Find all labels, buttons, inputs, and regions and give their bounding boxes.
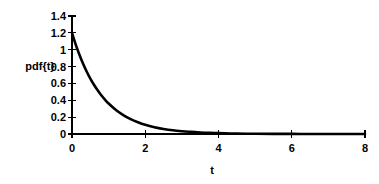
y-tick-label: 0.2 [51,111,66,123]
y-tick-label: 0.6 [51,77,66,89]
y-tick-label: 0 [60,128,66,140]
x-tick-label: 0 [69,142,75,154]
x-axis-title: t [210,164,214,176]
x-axis-tick-labels: 02468 [69,142,368,154]
exponential-pdf-chart: 00.20.40.60.811.21.4 02468 pdf{t} t [0,0,379,184]
y-axis-tick-labels: 00.20.40.60.811.21.4 [51,10,67,140]
x-tick-label: 6 [289,142,295,154]
y-tick-label: 1.2 [51,27,66,39]
y-tick-label: 0.4 [51,94,67,106]
chart-canvas: 00.20.40.60.811.21.4 02468 pdf{t} t [0,0,379,184]
y-tick-label: 1.4 [51,10,67,22]
pdf-curve [72,33,365,134]
x-tick-label: 2 [142,142,148,154]
y-tick-label: 1 [60,44,66,56]
y-axis-title: pdf{t} [25,60,55,72]
x-tick-label: 8 [362,142,368,154]
x-tick-label: 4 [215,142,222,154]
